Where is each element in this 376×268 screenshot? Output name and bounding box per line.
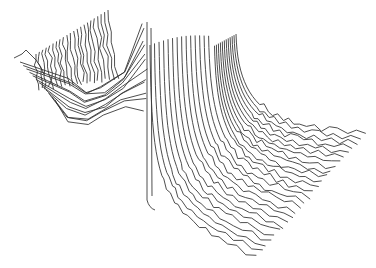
left-sheet-lines: [14, 10, 147, 125]
profile-line: [209, 36, 313, 191]
profile-line: [204, 36, 310, 200]
profile-line: [159, 42, 266, 246]
profile-line: [87, 23, 94, 84]
profile-line: [191, 36, 296, 214]
profile-line: [228, 38, 349, 152]
profile-line: [224, 40, 340, 160]
profile-line: [74, 31, 82, 85]
profile-line: [230, 37, 352, 148]
profile-line: [105, 12, 115, 80]
cliff-edge: [147, 22, 155, 210]
profile-line: [234, 35, 361, 139]
right-sheet-lines: [150, 34, 366, 255]
profile-line: [84, 25, 90, 82]
profile-line: [108, 10, 119, 79]
profile-line: [222, 42, 335, 169]
profile-line: [150, 45, 256, 255]
profile-line: [77, 29, 84, 82]
waterfall-surface-plot: [0, 0, 376, 268]
profile-line: [186, 36, 293, 218]
